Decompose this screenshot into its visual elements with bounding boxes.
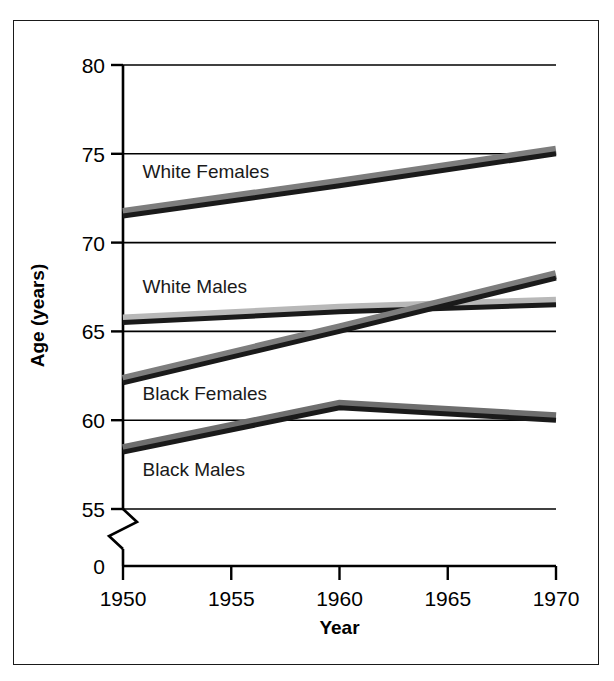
ytick-label-55: 55 — [82, 498, 105, 521]
xtick-label-1950: 1950 — [100, 587, 147, 610]
ytick-label-80: 80 — [82, 54, 105, 77]
series-label-black-females: Black Females — [142, 383, 267, 404]
series-label-white-females: White Females — [142, 161, 269, 182]
xtick-label-1970: 1970 — [533, 587, 580, 610]
ytick-label-75: 75 — [82, 143, 105, 166]
line-chart: 556065707580019501955196019651970YearAge… — [14, 21, 597, 663]
xtick-label-1965: 1965 — [424, 587, 471, 610]
y-axis-title: Age (years) — [27, 264, 48, 368]
xtick-label-1960: 1960 — [316, 587, 363, 610]
series-label-white-males: White Males — [142, 276, 247, 297]
x-axis-title: Year — [319, 617, 360, 638]
series-shadow-black-males — [123, 404, 556, 448]
ytick-label-60: 60 — [82, 409, 105, 432]
ytick-label-70: 70 — [82, 232, 105, 255]
series-line-black-males[interactable] — [123, 408, 556, 452]
ytick-label-zero: 0 — [93, 555, 105, 578]
ytick-label-65: 65 — [82, 320, 105, 343]
series-label-black-males: Black Males — [142, 459, 244, 480]
xtick-label-1955: 1955 — [208, 587, 255, 610]
y-axis-break-icon — [109, 509, 137, 549]
figure-frame: 556065707580019501955196019651970YearAge… — [13, 20, 599, 665]
